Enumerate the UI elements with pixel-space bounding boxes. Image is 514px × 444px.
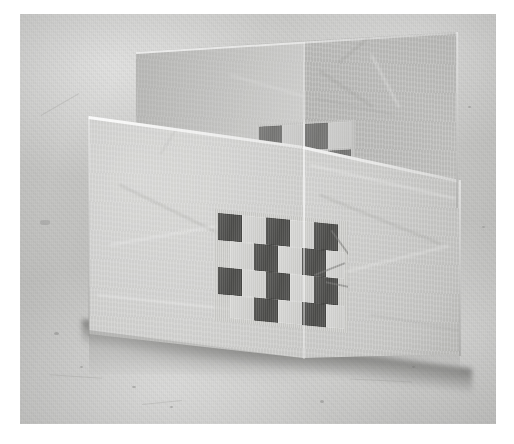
front-weave-pattern — [214, 209, 348, 334]
front-left-edge — [88, 116, 90, 336]
rear-right-edge — [456, 32, 458, 208]
screenshot-root — [0, 0, 514, 444]
front-right-edge — [459, 180, 461, 356]
photograph — [20, 14, 496, 424]
vertical-crease — [303, 42, 305, 359]
